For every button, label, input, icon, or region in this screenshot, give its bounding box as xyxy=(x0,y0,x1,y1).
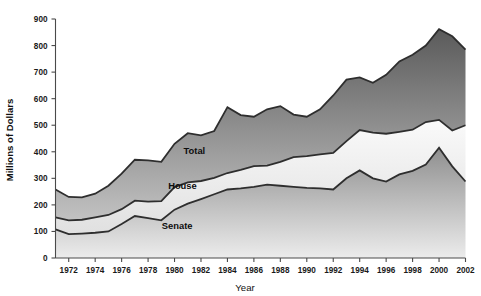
area-bands xyxy=(56,29,466,258)
house-label: House xyxy=(168,180,197,191)
x-tick-label-1976: 1976 xyxy=(113,266,132,275)
x-tick-label-1992: 1992 xyxy=(324,266,343,275)
x-axis-ticks: 1972197419761978198019821984198619881990… xyxy=(60,258,475,275)
y-axis-ticks: 0100200300400500600700800900 xyxy=(34,15,56,263)
total-label: Total xyxy=(184,145,206,156)
x-axis-title: Year xyxy=(235,282,255,293)
y-tick-label-0: 0 xyxy=(43,254,48,263)
y-tick-label-100: 100 xyxy=(34,227,48,236)
x-tick-label-1980: 1980 xyxy=(165,266,184,275)
x-tick-label-1974: 1974 xyxy=(86,266,105,275)
x-tick-label-1994: 1994 xyxy=(351,266,370,275)
x-tick-label-1978: 1978 xyxy=(139,266,158,275)
y-tick-label-900: 900 xyxy=(34,15,48,24)
y-tick-label-700: 700 xyxy=(34,68,48,77)
x-tick-label-1990: 1990 xyxy=(298,266,317,275)
y-tick-label-800: 800 xyxy=(34,42,48,51)
x-tick-label-2002: 2002 xyxy=(456,266,475,275)
y-tick-label-400: 400 xyxy=(34,148,48,157)
y-tick-label-200: 200 xyxy=(34,201,48,210)
y-tick-label-600: 600 xyxy=(34,95,48,104)
y-tick-label-500: 500 xyxy=(34,121,48,130)
x-tick-label-1988: 1988 xyxy=(271,266,290,275)
y-tick-label-300: 300 xyxy=(34,174,48,183)
senate-label: Senate xyxy=(162,220,193,231)
x-tick-label-1982: 1982 xyxy=(192,266,211,275)
x-tick-label-2000: 2000 xyxy=(430,266,449,275)
x-tick-label-1986: 1986 xyxy=(245,266,264,275)
x-tick-label-1972: 1972 xyxy=(60,266,79,275)
y-axis-title: Millions of Dollars xyxy=(4,99,15,182)
x-tick-label-1998: 1998 xyxy=(403,266,422,275)
chart-canvas: 0100200300400500600700800900 19721974197… xyxy=(0,0,481,296)
x-tick-label-1984: 1984 xyxy=(218,266,237,275)
x-tick-label-1996: 1996 xyxy=(377,266,396,275)
campaign-spending-area-chart: 0100200300400500600700800900 19721974197… xyxy=(0,0,481,296)
